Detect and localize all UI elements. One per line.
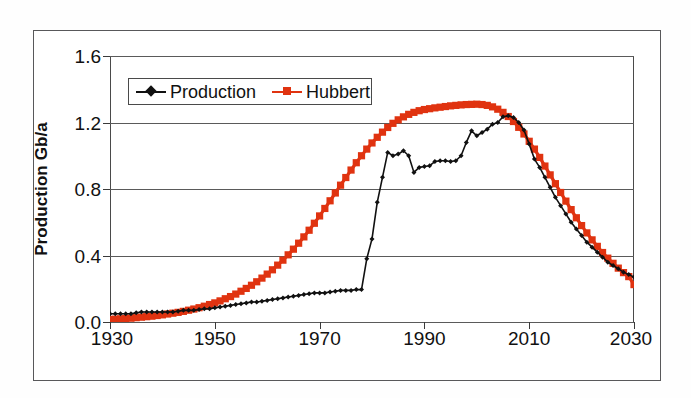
data-point-marker xyxy=(291,294,296,299)
data-point-marker xyxy=(562,198,569,205)
y-tick-mark xyxy=(103,189,110,190)
legend-marker-hubbert xyxy=(283,87,291,95)
data-point-marker xyxy=(317,290,322,295)
x-tick-label: 1970 xyxy=(298,329,340,349)
data-point-marker xyxy=(265,298,270,303)
square-marker-icon xyxy=(272,85,302,99)
data-point-marker xyxy=(228,303,233,308)
data-point-marker xyxy=(536,154,543,161)
data-point-marker xyxy=(239,301,244,306)
data-point-marker xyxy=(326,197,333,204)
data-point-marker xyxy=(249,300,254,305)
gridline-0-0 xyxy=(110,322,634,323)
y-tick-label: 1.6 xyxy=(75,47,101,66)
data-point-marker xyxy=(443,158,448,163)
data-point-marker xyxy=(349,288,354,293)
data-point-marker xyxy=(375,200,380,205)
legend-item-production: Production xyxy=(136,83,256,101)
data-point-marker xyxy=(342,174,349,181)
data-point-marker xyxy=(322,290,327,295)
x-tick-label: 1990 xyxy=(403,329,445,349)
data-point-marker xyxy=(259,299,264,304)
x-tick-label: 2030 xyxy=(610,329,652,349)
y-tick-mark xyxy=(103,123,110,124)
data-point-marker xyxy=(296,293,301,298)
data-point-marker xyxy=(370,236,375,241)
data-point-marker xyxy=(306,227,313,234)
data-point-marker xyxy=(270,297,275,302)
series-hubbert xyxy=(110,101,634,322)
x-tick-label: 1930 xyxy=(91,329,133,349)
legend-marker-production xyxy=(145,85,156,96)
legend-item-hubbert: Hubbert xyxy=(272,83,370,101)
data-point-marker xyxy=(295,240,302,247)
data-point-marker xyxy=(338,288,343,293)
data-point-marker xyxy=(333,289,338,294)
y-axis-title-text: Production Gb/a xyxy=(32,122,52,256)
data-point-marker xyxy=(547,171,554,178)
data-point-marker xyxy=(280,295,285,300)
y-tick-mark xyxy=(103,256,110,257)
chart-figure: Production Gb/a 1.6 1.2 0.8 0.4 0.0 1930… xyxy=(0,0,691,398)
legend-label-production: Production xyxy=(170,83,256,101)
data-point-marker xyxy=(364,256,369,261)
data-point-marker xyxy=(353,159,360,166)
data-point-marker xyxy=(244,300,249,305)
data-point-marker xyxy=(254,300,259,305)
y-tick-mark xyxy=(103,322,110,323)
data-point-marker xyxy=(588,236,595,243)
data-point-marker xyxy=(438,158,443,163)
data-point-marker xyxy=(307,291,312,296)
legend-label-hubbert: Hubbert xyxy=(306,83,370,101)
data-point-marker xyxy=(343,288,348,293)
data-point-marker xyxy=(464,140,469,145)
chart-legend: Production Hubbert xyxy=(128,78,372,105)
data-point-marker xyxy=(630,281,634,288)
data-point-marker xyxy=(363,146,370,153)
data-point-marker xyxy=(110,311,113,316)
data-point-marker xyxy=(573,214,580,221)
data-point-marker xyxy=(347,166,354,173)
data-point-marker xyxy=(583,229,590,236)
data-point-marker xyxy=(311,220,318,227)
data-point-marker xyxy=(332,189,339,196)
y-tick-mark xyxy=(103,56,110,57)
y-tick-label: 1.2 xyxy=(75,113,101,132)
data-point-marker xyxy=(541,162,548,169)
x-tick-label: 2010 xyxy=(508,329,550,349)
data-point-marker xyxy=(233,302,238,307)
data-point-marker xyxy=(448,159,453,164)
diamond-marker-icon xyxy=(136,85,166,99)
data-point-marker xyxy=(301,292,306,297)
series-line xyxy=(110,104,634,319)
data-point-marker xyxy=(337,182,344,189)
data-point-marker xyxy=(312,290,317,295)
data-point-marker xyxy=(286,295,291,300)
data-point-marker xyxy=(358,152,365,159)
data-point-marker xyxy=(300,233,307,240)
data-point-marker xyxy=(578,222,585,229)
data-point-marker xyxy=(380,175,385,180)
data-point-marker xyxy=(328,290,333,295)
data-point-marker xyxy=(354,287,359,292)
y-tick-label: 0.4 xyxy=(75,246,101,265)
data-point-marker xyxy=(359,287,364,292)
data-point-marker xyxy=(422,164,427,169)
y-axis-title: Production Gb/a xyxy=(29,56,55,322)
data-point-marker xyxy=(552,180,559,187)
data-point-marker xyxy=(316,212,323,219)
y-tick-label: 0.8 xyxy=(75,180,101,199)
data-point-marker xyxy=(275,296,280,301)
data-point-marker xyxy=(557,189,564,196)
data-point-marker xyxy=(321,205,328,212)
x-tick-label: 1950 xyxy=(194,329,236,349)
data-point-marker xyxy=(568,206,575,213)
